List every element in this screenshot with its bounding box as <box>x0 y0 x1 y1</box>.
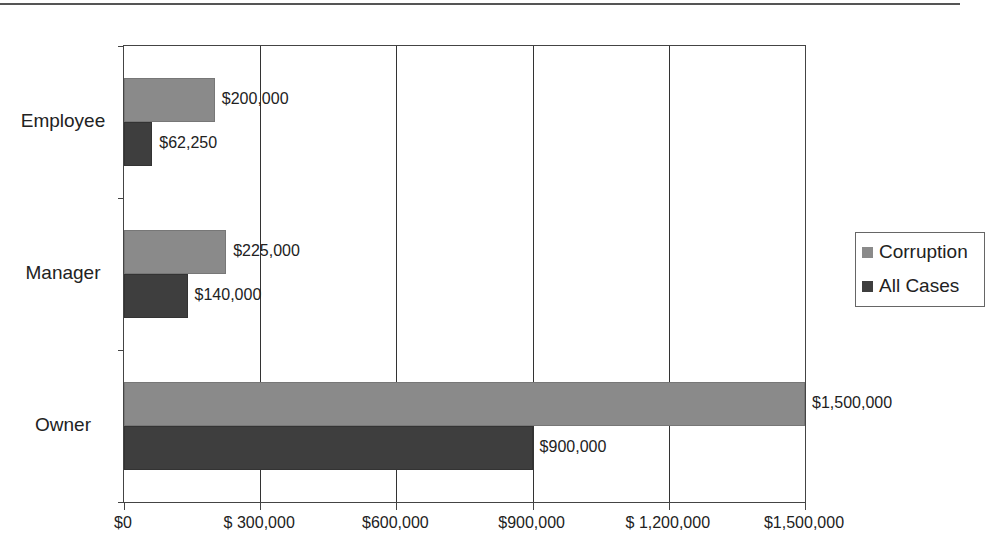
data-label: $225,000 <box>233 242 300 260</box>
bar-corruption <box>124 230 226 274</box>
x-tick-label: $ 1,200,000 <box>626 514 711 532</box>
category-label: Manager <box>8 262 118 284</box>
y-tick <box>118 198 124 199</box>
y-tick <box>118 350 124 351</box>
data-label: $900,000 <box>540 438 607 456</box>
legend-item-all-cases: All Cases <box>862 275 959 297</box>
all-cases-swatch-icon <box>862 281 873 292</box>
plot-area <box>123 45 806 503</box>
data-label: $62,250 <box>159 134 217 152</box>
data-label: $1,500,000 <box>812 394 892 412</box>
x-tick <box>533 502 534 510</box>
data-label: $140,000 <box>195 286 262 304</box>
x-tick-label: $1,500,000 <box>764 514 844 532</box>
bar-corruption <box>124 78 215 122</box>
legend-item-corruption: Corruption <box>862 241 968 263</box>
x-tick <box>669 502 670 510</box>
legend-label: Corruption <box>879 241 968 263</box>
corruption-swatch-icon <box>862 247 873 258</box>
data-label: $200,000 <box>222 90 289 108</box>
y-tick <box>118 46 124 47</box>
x-tick-label: $ 300,000 <box>224 514 295 532</box>
category-label: Owner <box>8 414 118 436</box>
x-tick <box>805 502 806 510</box>
bar-corruption <box>124 382 805 426</box>
top-rule <box>0 3 960 5</box>
x-tick-label: $900,000 <box>498 514 565 532</box>
gridline <box>533 46 534 502</box>
x-tick-label: $0 <box>114 514 132 532</box>
legend: Corruption All Cases <box>855 232 985 307</box>
x-tick <box>124 502 125 510</box>
x-tick-label: $600,000 <box>362 514 429 532</box>
legend-label: All Cases <box>879 275 959 297</box>
bar-all-cases <box>124 274 188 318</box>
x-tick <box>260 502 261 510</box>
x-tick <box>396 502 397 510</box>
y-tick <box>118 502 124 503</box>
bar-all-cases <box>124 122 152 166</box>
bar-all-cases <box>124 426 533 470</box>
category-label: Employee <box>8 110 118 132</box>
gridline <box>669 46 670 502</box>
